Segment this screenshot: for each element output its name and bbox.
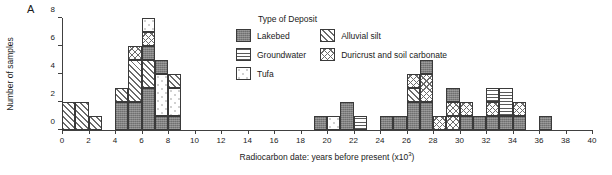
x-axis-tick <box>248 130 249 134</box>
bar-segment-lakebed <box>155 60 168 74</box>
y-axis-tick-label: 4 <box>51 62 55 70</box>
x-axis-label: Radiocarbon date: years before present (… <box>240 151 415 162</box>
legend-swatch-duricrust <box>320 48 335 61</box>
bar-segment-duricrust <box>446 116 459 130</box>
y-axis-tick-label: 6 <box>51 34 55 42</box>
bar-segment-tufa <box>327 116 340 130</box>
histogram-bar <box>513 102 526 130</box>
legend-title: Type of Deposit <box>258 14 506 24</box>
x-axis-tick <box>221 130 222 134</box>
x-axis-tick <box>168 130 169 134</box>
bar-segment-alluvial <box>128 60 141 102</box>
bar-segment-alluvial <box>62 102 75 130</box>
bar-segment-lakebed <box>420 102 433 130</box>
legend-item-tufa[interactable]: Tufa <box>236 67 306 80</box>
legend-item-duricrust[interactable]: Duricrust and soil carbonate <box>320 48 447 61</box>
legend-item-groundwater[interactable]: Groundwater <box>236 48 306 61</box>
bar-segment-groundwater <box>499 88 512 116</box>
bar-segment-lakebed <box>168 116 181 130</box>
histogram-bar <box>486 88 499 130</box>
x-axis-tick-label: 24 <box>376 137 385 145</box>
bar-segment-groundwater <box>354 116 367 130</box>
legend-item-alluvial[interactable]: Alluvial silt <box>320 29 447 42</box>
x-axis-tick-label: 26 <box>402 137 411 145</box>
x-axis-tick <box>89 130 90 134</box>
x-axis-tick-label: 40 <box>588 137 597 145</box>
figure-panel-a: A 02468 02468101214161820222426283032343… <box>0 0 612 175</box>
bar-segment-duricrust <box>128 46 141 60</box>
legend-label: Duricrust and soil carbonate <box>341 50 447 60</box>
legend-label: Tufa <box>257 69 274 79</box>
bar-segment-lakebed <box>499 116 512 130</box>
x-axis-tick-label: 16 <box>270 137 279 145</box>
bar-segment-alluvial <box>142 60 155 88</box>
x-axis-tick <box>327 130 328 134</box>
x-axis-tick-label: 32 <box>482 137 491 145</box>
y-axis-tick-label: 0 <box>51 118 55 126</box>
histogram-bar <box>75 102 88 130</box>
x-axis-tick-label: 12 <box>217 137 226 145</box>
bar-segment-duricrust <box>433 116 446 130</box>
x-axis-tick-label: 38 <box>561 137 570 145</box>
x-axis-tick-label: 18 <box>296 137 305 145</box>
histogram-bar <box>142 18 155 130</box>
bar-segment-lakebed <box>539 116 552 130</box>
x-axis-tick <box>566 130 567 134</box>
bar-segment-lakebed <box>393 116 406 130</box>
x-axis-tick-label: 6 <box>139 137 143 145</box>
legend-swatch-tufa <box>236 67 251 80</box>
legend-label: Lakebed <box>257 31 290 41</box>
y-axis-tick <box>58 73 62 74</box>
legend-swatch-lakebed <box>236 29 251 42</box>
histogram-bar <box>539 116 552 130</box>
bar-segment-lakebed <box>142 46 155 60</box>
x-axis-tick <box>195 130 196 134</box>
x-axis-tick-label: 2 <box>86 137 90 145</box>
y-axis-tick-label: 8 <box>51 6 55 14</box>
x-axis-tick-label: 0 <box>60 137 64 145</box>
histogram-bar <box>499 88 512 130</box>
histogram-bar <box>168 74 181 130</box>
bar-segment-tufa <box>142 18 155 32</box>
bar-segment-duricrust <box>486 102 499 116</box>
x-axis-tick <box>142 130 143 134</box>
histogram-bar <box>473 116 486 130</box>
y-axis-tick <box>58 45 62 46</box>
legend-item-lakebed[interactable]: Lakebed <box>236 29 306 42</box>
bar-segment-lakebed <box>155 116 168 130</box>
histogram-bar <box>327 116 340 130</box>
histogram-bar <box>460 102 473 130</box>
histogram-bar <box>340 102 353 130</box>
histogram-bar <box>128 46 141 130</box>
histogram-bar <box>433 116 446 130</box>
bar-segment-lakebed <box>407 102 420 130</box>
x-axis-tick-label: 28 <box>429 137 438 145</box>
bar-segment-alluvial <box>75 102 88 130</box>
x-axis-tick <box>513 130 514 134</box>
x-axis-tick <box>380 130 381 134</box>
bar-segment-alluvial <box>168 74 181 88</box>
bar-segment-lakebed <box>513 116 526 130</box>
legend-column-1: LakebedGroundwaterTufa <box>236 29 306 80</box>
bar-segment-lakebed <box>486 116 499 130</box>
histogram-bar <box>155 60 168 130</box>
bar-segment-tufa <box>155 74 168 116</box>
histogram-bar <box>393 116 406 130</box>
x-axis-tick <box>354 130 355 134</box>
x-axis-tick-label: 4 <box>113 137 117 145</box>
x-axis-tick <box>539 130 540 134</box>
x-axis-tick-label: 8 <box>166 137 170 145</box>
x-axis-tick <box>433 130 434 134</box>
histogram-bar <box>380 116 393 130</box>
panel-label: A <box>27 3 35 15</box>
legend-label: Groundwater <box>257 50 306 60</box>
bar-segment-lakebed <box>473 116 486 130</box>
bar-segment-lakebed <box>142 88 155 130</box>
bar-segment-tufa <box>168 88 181 116</box>
bar-segment-alluvial <box>89 116 102 130</box>
histogram-bar <box>115 88 128 130</box>
y-axis-tick-label: 2 <box>51 90 55 98</box>
x-axis-tick <box>301 130 302 134</box>
histogram-bar <box>354 116 367 130</box>
bar-segment-duricrust <box>513 102 526 116</box>
